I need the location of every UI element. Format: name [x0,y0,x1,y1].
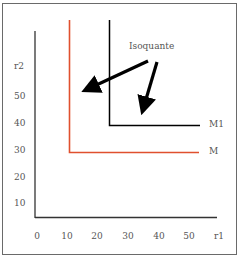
chart-plot [0,0,244,263]
x-tick-0: 0 [34,232,40,241]
y-tick-30: 30 [14,146,25,155]
x-tick-30: 30 [122,232,133,241]
y-tick-50: 50 [14,92,25,101]
x-tick-40: 40 [153,232,164,241]
x-tick-10: 10 [61,232,72,241]
y-axis-label: r2 [14,62,24,71]
isoquant-annotation: Isoquante [129,42,174,51]
x-axis-label: r1 [214,232,224,241]
isoquant-m-line [70,20,200,153]
arrow-to-m-icon [90,61,148,88]
curve-label-m: M [209,147,218,156]
x-tick-50: 50 [183,232,194,241]
y-tick-20: 20 [14,173,25,182]
y-tick-40: 40 [14,119,25,128]
arrow-to-m1-icon [144,62,157,106]
y-tick-10: 10 [14,199,25,208]
curve-label-m1: M1 [209,120,224,129]
x-tick-20: 20 [91,232,102,241]
